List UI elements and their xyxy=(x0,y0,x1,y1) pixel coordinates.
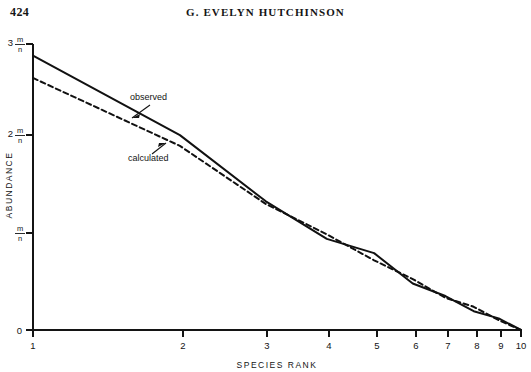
annotation-calculated: calculated xyxy=(128,143,169,163)
fraction-coefficient-3: 3 xyxy=(8,37,13,48)
fraction-denominator-n: n xyxy=(18,45,22,54)
y-axis-ticks xyxy=(26,44,33,330)
x-tick-label-3: 3 xyxy=(264,340,269,351)
annotation-calculated-label: calculated xyxy=(128,153,169,163)
running-head-title: G. EVELYN HUTCHINSON xyxy=(0,6,531,18)
rank-abundance-figure: 0 m n 2 m n 3 m n ABUNDANCE xyxy=(0,24,531,372)
x-tick-label-4: 4 xyxy=(326,340,331,351)
annotation-observed: observed xyxy=(130,92,167,118)
x-tick-label-5: 5 xyxy=(374,340,379,351)
x-tick-label-1: 1 xyxy=(30,340,35,351)
y-axis-title: ABUNDANCE xyxy=(4,152,14,219)
chart-svg: 0 m n 2 m n 3 m n ABUNDANCE xyxy=(0,24,531,372)
x-tick-label-2: 2 xyxy=(180,340,185,351)
y-tick-label-0: 0 xyxy=(17,325,22,336)
annotation-observed-label: observed xyxy=(130,92,167,102)
fraction-numerator-m: m xyxy=(17,224,23,233)
fraction-denominator-n: n xyxy=(18,234,22,243)
x-tick-label-7: 7 xyxy=(445,340,450,351)
x-tick-label-8: 8 xyxy=(474,340,479,351)
y-tick-label-2: 2 m n xyxy=(8,126,25,145)
fraction-numerator-m: m xyxy=(17,126,23,135)
x-axis-title: SPECIES RANK xyxy=(237,360,318,370)
fraction-coefficient-2: 2 xyxy=(8,128,13,139)
series-line-observed xyxy=(33,56,521,330)
x-tick-label-6: 6 xyxy=(413,340,418,351)
x-tick-label-9: 9 xyxy=(498,340,503,351)
x-tick-label-10: 10 xyxy=(516,340,527,351)
y-tick-label-3: 3 m n xyxy=(8,35,25,54)
fraction-numerator-m: m xyxy=(17,35,23,44)
x-axis-ticks xyxy=(33,330,521,337)
fraction-denominator-n: n xyxy=(18,136,22,145)
y-tick-label-1: m n xyxy=(15,224,25,243)
series-line-calculated xyxy=(33,78,521,330)
